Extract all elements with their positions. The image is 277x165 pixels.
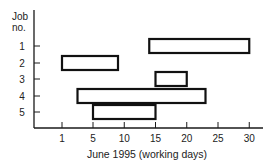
x-tick-label: 15: [150, 133, 162, 144]
x-tick-label: 25: [212, 133, 224, 144]
y-tick-label: 3: [19, 74, 25, 85]
task-bars: [62, 39, 249, 119]
x-tick-label: 30: [244, 133, 256, 144]
task-bar-job-2: [62, 56, 118, 70]
gantt-chart: Job no. 12345 151015202530 June 1995 (wo…: [0, 0, 277, 165]
x-tick-label: 1: [59, 133, 65, 144]
x-tick-label: 5: [90, 133, 96, 144]
task-bar-job-3: [156, 72, 187, 86]
x-tick-label: 10: [119, 133, 131, 144]
x-axis-ticks: 151015202530: [59, 122, 255, 144]
y-axis-title-line-2: no.: [12, 22, 26, 33]
y-tick-label: 5: [19, 107, 25, 118]
y-axis-ticks: 12345: [19, 41, 40, 118]
y-tick-label: 2: [19, 58, 25, 69]
task-bar-job-5: [93, 105, 156, 119]
y-tick-label: 4: [19, 91, 25, 102]
task-bar-job-1: [149, 39, 249, 53]
x-tick-label: 20: [181, 133, 193, 144]
y-axis-title: Job no.: [12, 11, 29, 33]
chart-canvas: Job no. 12345 151015202530 June 1995 (wo…: [0, 0, 277, 165]
y-tick-label: 1: [19, 41, 25, 52]
y-axis-title-line-1: Job: [12, 11, 29, 22]
x-axis-title: June 1995 (working days): [87, 148, 207, 160]
task-bar-job-4: [78, 89, 206, 103]
